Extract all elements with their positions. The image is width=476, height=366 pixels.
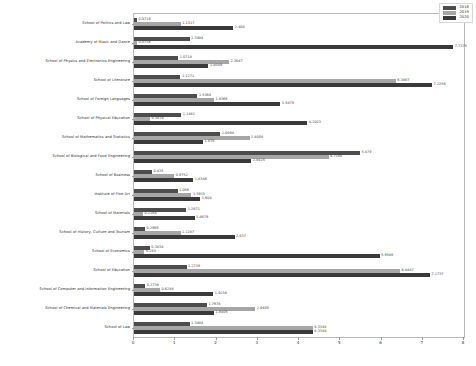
legend-swatch [443,6,456,10]
bar-value-label: 1.4679 [196,216,208,219]
bar-row: 7.2256 [134,83,464,87]
bar-row: 4.2023 [134,121,464,125]
bar-value-label: 4.3348 [314,330,326,333]
x-axis-tick-label: 5 [338,340,341,345]
bar[interactable] [134,102,280,106]
y-axis-tick [132,252,134,253]
bar-group: 0.38340.2535.9549 [134,246,464,258]
y-axis-tick [132,81,134,82]
chart-legend: 201820192020 [439,3,473,23]
bar[interactable] [134,83,432,87]
bar[interactable] [134,178,193,182]
bar-row: 1.4679 [134,216,464,220]
x-axis-tick-label: 7 [420,340,423,345]
category-label: School of Economics [92,249,130,253]
bar[interactable] [134,292,213,296]
bar-value-label: 2.437 [236,235,246,238]
category-label: School of Business [96,173,130,177]
y-axis-tick [132,24,134,25]
bar-row: 2.8425 [134,159,464,163]
legend-item[interactable]: 2019 [443,11,469,15]
x-axis-tick-label: 0 [132,340,135,345]
bar-group: 1.34844.33484.3348 [134,322,464,334]
y-axis-tick [132,195,134,196]
plot-inner: 0.07191.13172.4081.34840.07167.73751.071… [134,14,464,337]
legend-swatch [443,16,456,20]
bar[interactable] [134,330,313,334]
bar-value-label: 1.604 [202,197,212,200]
bar[interactable] [134,216,195,220]
bar[interactable] [134,254,380,258]
bar-value-label: 4.2023 [309,121,321,124]
bar-group: 1.26710.21641.4679 [134,208,464,220]
y-axis-tick [132,43,134,44]
x-axis-tick-label: 3 [255,340,258,345]
bar-group: 1.14810.38744.2023 [134,113,464,125]
bar-row: 7.7375 [134,45,464,49]
plot-area: 0.07191.13172.4081.34840.07167.73751.071… [133,13,465,338]
y-axis-tick [132,100,134,101]
bar[interactable] [134,197,200,201]
bar-value-label: 1.9238 [215,292,227,295]
category-label: School of Physics and Electronics Engine… [45,59,130,63]
bar-group: 1.27396.44877.1737 [134,265,464,277]
category-label: School of Mathematics and Statistics [62,135,130,139]
y-axis-tick [132,328,134,329]
bar-row: 4.3348 [134,330,464,334]
bar-row: 7.1737 [134,273,464,277]
category-label: School of Chemical and Materials Enginee… [45,306,130,310]
bar-value-label: 7.7375 [455,45,467,48]
bar-value-label: 1.4346 [195,178,207,181]
category-label: School of Foreign Languages [77,97,130,101]
legend-item[interactable]: 2018 [443,6,469,10]
bar[interactable] [134,121,307,125]
bar-value-label: 5.9549 [381,254,393,257]
bar-row: 1.8049 [134,64,464,68]
y-axis-tick [132,309,134,310]
category-label: School of Law [105,325,130,329]
bar[interactable] [134,273,430,277]
bar[interactable] [134,311,214,315]
bar-value-label: 7.1737 [431,273,443,276]
y-axis-tick [132,62,134,63]
bar-group: 0.27380.62881.9238 [134,284,464,296]
y-axis-tick [132,119,134,120]
bar[interactable] [134,64,208,68]
bar-group: 0.26951.12872.437 [134,227,464,239]
bar[interactable] [134,159,251,163]
bar-group: 0.07191.13172.408 [134,18,464,30]
y-axis-tick [132,290,134,291]
bar-group: 1.53641.93663.5479 [134,94,464,106]
bar-value-label: 2.408 [235,26,245,29]
bar-group: 1.07182.30471.8049 [134,56,464,68]
bar-value-label: 1.675 [205,140,215,143]
y-axis-tick [132,176,134,177]
bar[interactable] [134,140,203,144]
legend-item[interactable]: 2020 [443,16,469,20]
bar-group: 5.4794.71682.8425 [134,151,464,163]
y-axis-tick [132,271,134,272]
bar-value-label: 1.9405 [216,311,228,314]
category-label: Academy of Music and Dance [76,40,130,44]
bar-value-label: 7.2256 [434,83,446,86]
bar-value-label: 3.5479 [282,102,294,105]
y-axis-tick [132,157,134,158]
bar-row: 5.9549 [134,254,464,258]
bar[interactable] [134,45,453,49]
bar[interactable] [134,26,233,30]
bar-group: 2.08942.80081.675 [134,132,464,144]
bar-row: 3.5479 [134,102,464,106]
category-label: School of Physical Education [77,116,130,120]
bar-group: 1.76782.94051.9405 [134,303,464,315]
category-label: School of Education [93,268,130,272]
y-axis-tick [132,233,134,234]
bar-group: 1.12716.34677.2256 [134,75,464,87]
category-label: School of Biological and Food Engineerin… [53,154,130,158]
bar-group: 0.4350.97521.4346 [134,170,464,182]
bar-row: 1.9405 [134,311,464,315]
category-label: School of Politics and Law [82,21,130,25]
bar[interactable] [134,235,235,239]
x-axis-tick-label: 1 [173,340,176,345]
bar-value-label: 2.8425 [253,159,265,162]
legend-swatch [443,11,456,15]
